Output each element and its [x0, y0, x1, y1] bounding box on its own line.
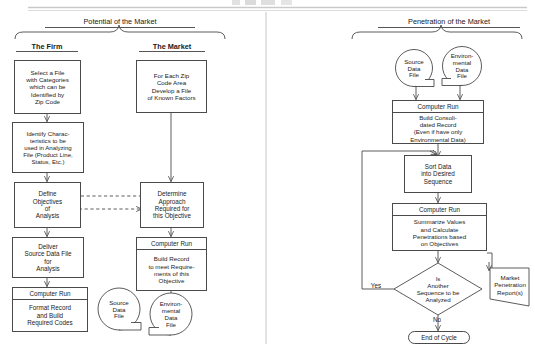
format-record-box-header: Computer Run — [13, 288, 87, 300]
column-label-the-market: The Market — [139, 42, 205, 52]
build-consolidated-record-box-body: Build Consoli-dated Record(Even if have … — [393, 113, 483, 144]
market-penetration-report-doc-label: MarketPenetrationReport(s) — [492, 269, 528, 301]
scan-artifact-header — [232, 0, 302, 5]
identify-characteristics-box[interactable]: Identify Charac-teristics to beused in A… — [12, 122, 84, 173]
build-record-box[interactable]: Computer Run Build Recordto meet Require… — [136, 237, 207, 291]
column-label-the-firm: The Firm — [16, 42, 78, 52]
summarize-values-box-header: Computer Run — [393, 204, 486, 216]
build-consolidated-record-box[interactable]: Computer Run Build Consoli-dated Record(… — [392, 100, 484, 144]
end-of-cycle-terminator[interactable]: End of Cycle — [408, 331, 470, 344]
source-data-file-store-right-label: SourceDataFile — [396, 56, 432, 82]
source-data-file-store-left-label: SourceDataFile — [100, 297, 138, 323]
build-record-box-body: Build Recordto meet Require-ments of thi… — [137, 250, 206, 290]
environmental-data-file-store-right-label: Environ-mentalDataFile — [444, 50, 480, 83]
summarize-values-box-body: Summarize Valuesand CalculatePenetration… — [393, 216, 486, 250]
determine-approach-box[interactable]: DetermineApproachRequired forthis Object… — [140, 182, 204, 228]
build-record-box-header: Computer Run — [137, 238, 206, 250]
format-record-box[interactable]: Computer Run Format Recordand BuildRequi… — [12, 287, 88, 332]
environmental-data-file-store-left-label: Environ-mentalDataFile — [152, 299, 190, 331]
flowchart-canvas: Potential of the Market The Firm The Mar… — [0, 0, 535, 346]
build-consolidated-record-box-header: Computer Run — [393, 101, 483, 113]
select-file-box[interactable]: Select a Filewith Categorieswhich can be… — [14, 60, 81, 114]
left-panel-title: Potential of the Market — [45, 17, 195, 28]
zip-code-file-box[interactable]: For Each ZipCode AreaDevelop a Fileof Kn… — [136, 60, 207, 113]
right-panel-title: Penetration of the Market — [378, 17, 520, 28]
decision-yes-label: Yes — [366, 282, 386, 289]
summarize-values-box[interactable]: Computer Run Summarize Valuesand Calcula… — [392, 203, 487, 251]
format-record-box-body: Format Recordand BuildRequired Codes — [13, 300, 87, 331]
deliver-source-data-box[interactable]: DeliverSource Data FileforAnalysis — [12, 237, 84, 278]
another-sequence-decision-label: IsAnotherSequence to beAnalyzed — [402, 268, 474, 310]
sort-data-box[interactable]: Sort Datainto DesiredSequence — [404, 155, 472, 193]
decision-no-label: No — [427, 316, 447, 323]
define-objectives-box[interactable]: DefineObjectivesofAnalysis — [14, 182, 81, 228]
